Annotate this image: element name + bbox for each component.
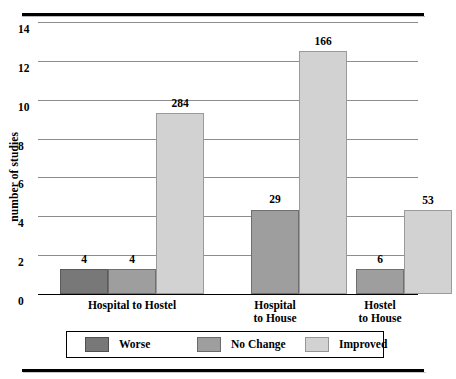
gridline <box>38 100 418 101</box>
legend-swatch-icon <box>85 337 109 352</box>
bar-improved <box>404 210 452 294</box>
y-axis-tick-label: 14 <box>18 24 36 36</box>
plot-area: 02468101214 4428429166653 Hospital to Ho… <box>38 22 418 294</box>
legend-label: Worse <box>119 339 150 351</box>
legend-label: Improved <box>339 339 387 351</box>
category-label-2: Hostelto House <box>296 299 456 325</box>
bar-no-change <box>108 269 156 294</box>
category-label-line: to House <box>296 312 456 325</box>
y-axis-tick-label: 2 <box>18 257 36 269</box>
bar-value-label: 284 <box>156 98 204 110</box>
category-label-line: Hostel <box>296 299 456 312</box>
y-axis-tick-label: 8 <box>18 141 36 153</box>
bar-value-label: 4 <box>108 254 156 266</box>
bar-value-label: 53 <box>404 195 452 207</box>
legend-swatch-icon <box>305 337 329 352</box>
legend-swatch-icon <box>197 337 221 352</box>
gridline <box>38 61 418 62</box>
bar-value-label: 6 <box>356 254 404 266</box>
bar-no-change <box>356 269 404 294</box>
gridline <box>38 216 418 217</box>
top-rule-shadow <box>22 16 425 17</box>
bar-value-label: 4 <box>60 254 108 266</box>
x-axis-baseline <box>38 294 418 295</box>
bottom-rule-shadow <box>23 372 426 373</box>
y-axis-tick-label: 0 <box>18 296 36 308</box>
y-axis-tick-label: 12 <box>18 63 36 75</box>
bar-no-change <box>251 210 299 295</box>
y-axis-tick-label: 6 <box>18 179 36 191</box>
bar-value-label: 29 <box>251 194 299 206</box>
bar-improved <box>299 51 347 294</box>
bar-value-label: 166 <box>299 36 347 48</box>
legend-label: No Change <box>231 339 286 351</box>
legend-item-improved[interactable]: Improved <box>305 336 387 353</box>
y-axis-tick-label: 10 <box>18 102 36 114</box>
chart-legend: WorseNo ChangeImproved <box>66 331 384 358</box>
gridline <box>38 139 418 140</box>
bar-worse <box>60 269 108 294</box>
gridline <box>38 22 418 23</box>
bar-improved <box>156 113 204 294</box>
legend-item-worse[interactable]: Worse <box>85 336 150 353</box>
legend-item-nochange[interactable]: No Change <box>197 336 286 353</box>
y-axis-tick-label: 4 <box>18 218 36 230</box>
gridline <box>38 177 418 178</box>
